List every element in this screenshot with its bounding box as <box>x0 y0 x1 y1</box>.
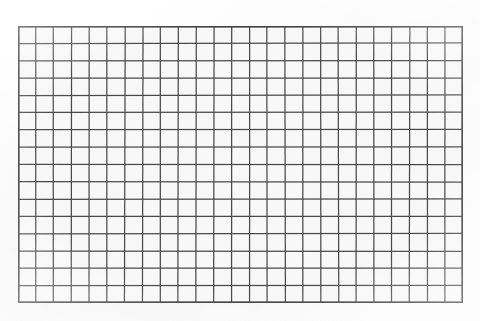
grid-svg <box>18 26 463 303</box>
grid-line-horizontal <box>18 43 463 44</box>
grid-line-horizontal <box>18 95 463 96</box>
grid-figure <box>18 26 463 303</box>
grid-line-horizontal <box>18 199 463 200</box>
figure-canvas <box>0 0 480 321</box>
